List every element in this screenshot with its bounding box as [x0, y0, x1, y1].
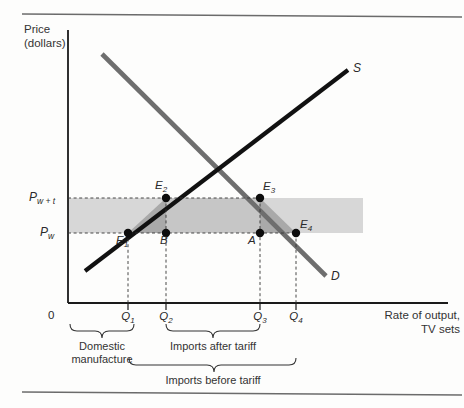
q-label-q2-sub: 2 — [168, 316, 172, 325]
price-label-pw: Pw — [40, 225, 54, 241]
bracket-label-imports-before: Imports before tariff — [153, 374, 273, 387]
q-label-q4: Q4 — [286, 310, 306, 326]
bracket-imports-after-path — [166, 324, 260, 338]
point-label-e3-sub: 3 — [271, 186, 275, 195]
point-label-a: A — [248, 234, 256, 248]
point-label-e2: E2 — [155, 179, 167, 195]
point-label-b-base: B — [160, 234, 168, 246]
q-label-q3: Q3 — [250, 310, 270, 326]
q-label-q1: Q1 — [118, 310, 138, 326]
origin-label: 0 — [48, 309, 54, 323]
x-axis-title-line1: Rate of output, — [385, 309, 460, 321]
point-label-b: B — [160, 234, 168, 248]
q-label-q3-sub: 3 — [262, 316, 266, 325]
demand-curve-line — [102, 54, 326, 276]
tariff-revenue-rect — [166, 198, 260, 233]
point-label-e4-base: E — [300, 218, 308, 230]
supply-curve-label: S — [353, 61, 361, 75]
dot-a — [256, 229, 264, 237]
bracket-domestic-path — [70, 324, 134, 338]
dot-e2 — [162, 194, 170, 202]
point-label-e2-base: E — [155, 179, 163, 191]
price-label-pw-plus-t-sub: w + t — [37, 196, 55, 206]
q-label-q3-base: Q — [253, 310, 262, 322]
point-label-e3: E3 — [263, 180, 275, 196]
point-label-a-base: A — [248, 234, 256, 246]
bracket-label-domestic-line1: Domestic — [79, 340, 125, 352]
top-rule — [22, 14, 462, 17]
price-label-pw-plus-t-base: P — [29, 190, 37, 204]
bracket-label-domestic-line2: manufacture — [71, 353, 132, 365]
price-label-pw-plus-t: Pw + t — [29, 190, 55, 206]
q-label-q2: Q2 — [156, 310, 176, 326]
bracket-label-domestic: Domesticmanufacture — [52, 340, 152, 366]
point-label-e4: E4 — [300, 218, 312, 234]
price-label-pw-base: P — [40, 225, 48, 239]
y-axis-title-line1: Price — [24, 23, 50, 35]
q-label-q1-base: Q — [121, 310, 130, 322]
x-axis-title: Rate of output,TV sets — [360, 309, 460, 336]
point-label-e3-base: E — [263, 180, 271, 192]
point-label-e1-base: E — [116, 234, 124, 246]
price-label-pw-sub: w — [48, 231, 54, 241]
bracket-label-imports-before-line1: Imports before tariff — [165, 374, 260, 386]
x-axis-title-line2: TV sets — [421, 323, 460, 335]
point-label-e1-sub: 1 — [124, 240, 128, 249]
bracket-imports-before-path — [129, 358, 296, 372]
q-label-q2-base: Q — [159, 310, 168, 322]
bracket-label-imports-after-line1: Imports after tariff — [170, 340, 256, 352]
dot-e4 — [292, 229, 300, 237]
bracket-label-imports-after: Imports after tariff — [153, 340, 273, 353]
point-label-e4-sub: 4 — [308, 224, 312, 233]
q-label-q4-base: Q — [289, 310, 298, 322]
point-label-e2-sub: 2 — [163, 185, 167, 194]
point-label-e1: E1 — [116, 234, 128, 250]
y-axis-title: Price(dollars) — [24, 23, 66, 50]
q-label-q1-sub: 1 — [130, 316, 134, 325]
bottom-rule — [22, 392, 462, 395]
demand-curve-label: D — [331, 269, 340, 283]
tariff-welfare-diagram: Price(dollars) Rate of output,TV sets 0 … — [0, 0, 464, 408]
q-label-q4-sub: 4 — [298, 316, 302, 325]
y-axis-title-line2: (dollars) — [24, 37, 66, 49]
